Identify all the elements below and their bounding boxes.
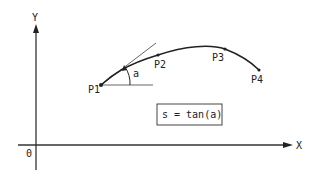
y-axis-arrow-icon [33,24,39,33]
formula-text: s = tan(a) [162,109,222,120]
curve [101,46,259,85]
point-label-p4: P4 [251,74,263,85]
point-label-p2: P2 [154,59,166,70]
y-axis-label: Y [32,12,38,23]
angle-label: a [133,68,139,79]
slope-diagram: Y X 0 a P1 P2 P3 P4 s = tan(a) [0,0,313,181]
point-label-p3: P3 [212,52,224,63]
x-axis-arrow-icon [283,142,293,148]
point-p3 [223,47,226,50]
point-p4 [257,68,260,71]
origin-label: 0 [26,148,32,159]
point-p2 [156,53,159,56]
x-axis-label: X [296,140,302,151]
point-label-p1: P1 [88,84,100,95]
